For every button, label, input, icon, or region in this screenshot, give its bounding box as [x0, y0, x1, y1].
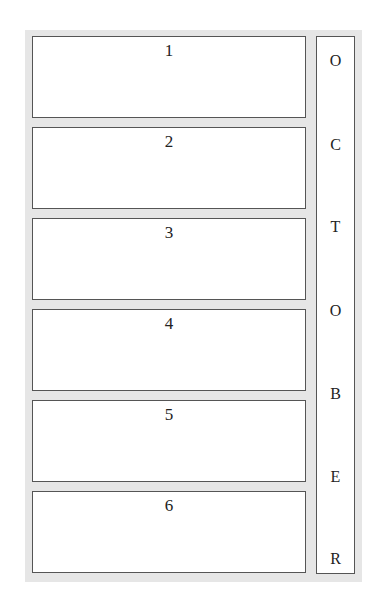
week-box-1[interactable]: 1 [32, 36, 306, 118]
week-number: 3 [33, 223, 305, 243]
month-letter: T [317, 217, 354, 237]
week-number: 4 [33, 314, 305, 334]
week-number: 6 [33, 496, 305, 516]
month-letter: B [317, 384, 354, 404]
month-letter: R [317, 549, 354, 569]
week-box-3[interactable]: 3 [32, 218, 306, 300]
month-column: O C T O B E R [316, 36, 355, 574]
week-number: 1 [33, 41, 305, 61]
month-letter: C [317, 135, 354, 155]
week-box-5[interactable]: 5 [32, 400, 306, 482]
month-letter: E [317, 467, 354, 487]
week-number: 2 [33, 132, 305, 152]
month-letter: O [317, 301, 354, 321]
calendar-panel: 1 2 3 4 5 6 O C T O B E R [25, 30, 362, 582]
week-box-6[interactable]: 6 [32, 491, 306, 573]
week-box-4[interactable]: 4 [32, 309, 306, 391]
week-number: 5 [33, 405, 305, 425]
week-box-2[interactable]: 2 [32, 127, 306, 209]
month-letter: O [317, 51, 354, 71]
